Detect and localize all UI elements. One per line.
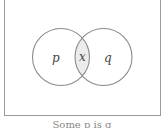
set-q-label: q	[104, 52, 112, 64]
caption: Some p is q	[0, 120, 164, 128]
intersection-label: x	[79, 51, 86, 63]
venn-diagram	[0, 0, 164, 128]
set-p-label: p	[52, 52, 60, 64]
